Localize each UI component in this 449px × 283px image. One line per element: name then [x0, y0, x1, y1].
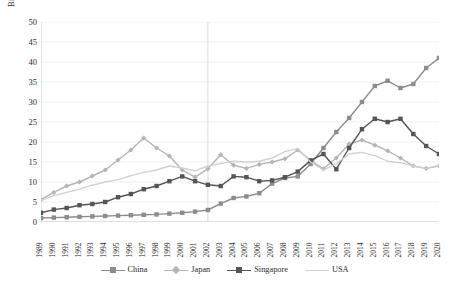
series-marker-china	[296, 174, 300, 178]
series-marker-singapore	[360, 127, 364, 131]
y-axis-tick-label: 30	[21, 98, 37, 107]
series-marker-china	[180, 211, 184, 215]
series-marker-china	[398, 86, 402, 90]
series-marker-china	[424, 66, 428, 70]
series-marker-china	[41, 216, 43, 220]
series-marker-china	[206, 208, 210, 212]
x-axis-tick-label: 2000	[178, 243, 186, 258]
series-line-usa	[41, 148, 439, 200]
plot-svg	[41, 22, 439, 222]
series-marker-china	[244, 194, 248, 198]
series-line-singapore	[41, 119, 439, 213]
legend-swatch-usa	[305, 266, 329, 275]
y-axis-tick-label: 25	[21, 118, 37, 127]
x-axis-tick-label: 2002	[203, 243, 211, 258]
y-axis-ticks: 05101520253035404550	[19, 0, 37, 283]
x-axis-tick-label: 2008	[280, 243, 288, 258]
series-marker-china	[77, 215, 81, 219]
x-axis-tick-label: 2019	[422, 243, 430, 258]
series-marker-japan	[64, 183, 69, 188]
series-marker-china	[52, 215, 56, 219]
x-axis-tick-label: 2015	[370, 243, 378, 258]
legend-line-icon	[305, 270, 329, 271]
x-axis-tick-label: 2005	[242, 243, 250, 258]
series-marker-singapore	[398, 117, 402, 121]
x-axis-tick-label: 2007	[268, 243, 276, 258]
series-marker-japan	[257, 162, 262, 167]
series-marker-singapore	[129, 192, 133, 196]
series-marker-singapore	[206, 183, 210, 187]
series-marker-singapore	[231, 174, 235, 178]
x-axis-tick-label: 2018	[409, 243, 417, 258]
series-marker-singapore	[283, 175, 287, 179]
series-marker-singapore	[424, 144, 428, 148]
series-marker-china	[103, 214, 107, 218]
series-marker-china	[257, 191, 261, 195]
x-axis-tick-label: 1991	[62, 243, 70, 258]
x-axis-tick-label: 2010	[306, 243, 314, 258]
series-marker-singapore	[180, 174, 184, 178]
series-marker-china	[154, 212, 158, 216]
legend-item-singapore[interactable]: Singapore	[227, 266, 288, 275]
x-axis-tick-label: 2011	[319, 243, 327, 258]
x-axis-tick-label: 1997	[139, 243, 147, 258]
legend-swatch-singapore	[227, 266, 251, 275]
series-line-japan	[41, 138, 439, 200]
y-axis-tick-label: 50	[21, 18, 37, 27]
series-marker-singapore	[270, 178, 274, 182]
series-marker-china	[116, 213, 120, 217]
series-marker-japan	[244, 166, 249, 171]
series-marker-singapore	[103, 200, 107, 204]
x-axis-tick-label: 2003	[216, 243, 224, 258]
x-axis-tick-label: 2001	[190, 243, 198, 258]
plot-area	[41, 22, 439, 222]
series-marker-singapore	[437, 152, 439, 156]
series-marker-china	[373, 84, 377, 88]
series-marker-china	[90, 214, 94, 218]
legend-swatch-japan	[164, 266, 188, 275]
legend-label: USA	[332, 266, 349, 274]
series-marker-singapore	[347, 146, 351, 150]
x-axis-tick-label: 2004	[229, 243, 237, 258]
legend-label: China	[128, 266, 148, 274]
legend-label: Singapore	[254, 266, 288, 274]
series-marker-china	[142, 213, 146, 217]
x-axis-tick-label: 1999	[165, 243, 173, 258]
x-axis-tick-label: 1994	[101, 243, 109, 258]
series-marker-singapore	[77, 203, 81, 207]
series-marker-singapore	[142, 187, 146, 191]
series-marker-china	[219, 201, 223, 205]
legend-item-japan[interactable]: Japan	[164, 266, 210, 275]
series-marker-singapore	[296, 169, 300, 173]
series-marker-singapore	[41, 211, 43, 215]
series-marker-singapore	[373, 117, 377, 121]
series-marker-china	[411, 82, 415, 86]
series-marker-singapore	[52, 207, 56, 211]
x-axis-tick-label: 1998	[152, 243, 160, 258]
x-axis-tick-label: 2012	[332, 243, 340, 258]
y-axis-tick-label: 15	[21, 158, 37, 167]
y-axis-tick-label: 5	[21, 198, 37, 207]
series-marker-singapore	[385, 120, 389, 124]
x-axis-tick-label: 1992	[75, 243, 83, 258]
series-marker-singapore	[411, 132, 415, 136]
series-marker-china	[385, 79, 389, 83]
x-axis-tick-label: 2006	[255, 243, 263, 258]
y-axis-tick-label: 40	[21, 58, 37, 67]
x-axis-tick-label: 2009	[293, 243, 301, 258]
x-axis-tick-label: 1996	[126, 243, 134, 258]
legend-label: Japan	[191, 266, 210, 274]
series-marker-china	[360, 100, 364, 104]
y-axis-tick-label: 45	[21, 38, 37, 47]
legend-marker-icon	[110, 267, 116, 273]
x-axis-tick-label: 2020	[434, 243, 442, 258]
series-marker-singapore	[334, 167, 338, 171]
series-marker-japan	[372, 143, 377, 148]
legend-item-usa[interactable]: USA	[305, 266, 349, 275]
x-axis-tick-label: 2016	[383, 243, 391, 258]
series-marker-china	[193, 209, 197, 213]
legend-item-china[interactable]: China	[101, 266, 148, 275]
legend-marker-icon	[172, 266, 180, 274]
chart-legend: ChinaJapanSingaporeUSA	[0, 262, 449, 278]
series-marker-china	[64, 215, 68, 219]
